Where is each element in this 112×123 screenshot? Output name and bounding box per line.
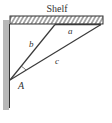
shelf-label: Shelf bbox=[46, 3, 68, 14]
shelf-bracket-diagram: Shelf a b c A bbox=[0, 0, 112, 123]
label-c: c bbox=[55, 56, 59, 66]
wall bbox=[3, 20, 10, 110]
angle-arc bbox=[21, 66, 26, 70]
label-a: a bbox=[68, 26, 73, 36]
label-point-A: A bbox=[17, 80, 25, 91]
member-b bbox=[10, 25, 55, 81]
member-c bbox=[10, 25, 101, 81]
shelf bbox=[10, 16, 103, 24]
label-b: b bbox=[29, 39, 34, 49]
